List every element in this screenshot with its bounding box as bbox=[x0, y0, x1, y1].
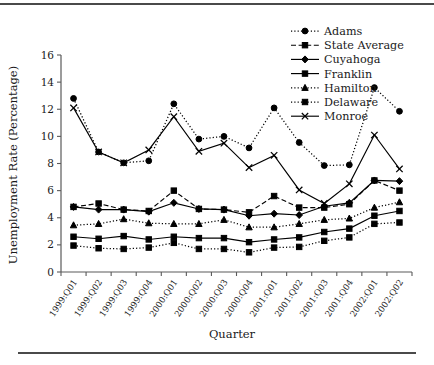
y-tick-label: 0 bbox=[47, 266, 54, 278]
legend-item-hamilton[interactable]: Hamilton bbox=[291, 82, 377, 95]
legend-item-delaware[interactable]: Delaware bbox=[291, 96, 378, 109]
y-tick-label: 10 bbox=[41, 130, 54, 142]
series-hamilton bbox=[70, 199, 402, 230]
legend-label: Cuyahoga bbox=[324, 53, 381, 66]
legend-item-monroe[interactable]: Monroe bbox=[291, 110, 368, 123]
figure-container: 0246810121416 1999:Q011999:Q021999:Q0319… bbox=[0, 0, 434, 365]
y-tick-label: 4 bbox=[47, 211, 54, 223]
legend-label: Monroe bbox=[324, 110, 368, 123]
legend-label: Franklin bbox=[324, 68, 372, 81]
y-tick-label: 8 bbox=[47, 157, 54, 169]
y-tick-label: 6 bbox=[47, 184, 54, 196]
y-tick-label: 2 bbox=[47, 238, 54, 250]
legend-label: Adams bbox=[323, 25, 363, 38]
x-axis-title: Quarter bbox=[209, 327, 256, 341]
y-tick-label: 16 bbox=[41, 49, 55, 61]
chart-legend: AdamsState AverageCuyahogaFranklinHamilt… bbox=[291, 25, 404, 123]
legend-label: State Average bbox=[324, 39, 404, 52]
legend-item-adams[interactable]: Adams bbox=[291, 25, 363, 38]
y-tick-label: 14 bbox=[41, 76, 55, 88]
legend-label: Hamilton bbox=[324, 82, 377, 95]
legend-item-state-average[interactable]: State Average bbox=[291, 39, 404, 52]
y-axis-title: Unemployment Rate (Percentage) bbox=[6, 66, 20, 264]
x-tick-labels: 1999:Q011999:Q021999:Q031999:Q042000:Q01… bbox=[47, 277, 405, 318]
legend-item-franklin[interactable]: Franklin bbox=[291, 68, 372, 81]
legend-label: Delaware bbox=[324, 96, 378, 109]
series-cuyahoga bbox=[70, 177, 403, 219]
line-chart: 0246810121416 1999:Q011999:Q021999:Q0319… bbox=[0, 0, 434, 365]
legend-item-cuyahoga[interactable]: Cuyahoga bbox=[291, 53, 381, 66]
y-tick-label: 12 bbox=[41, 103, 54, 115]
y-tick-labels: 0246810121416 bbox=[41, 49, 55, 278]
